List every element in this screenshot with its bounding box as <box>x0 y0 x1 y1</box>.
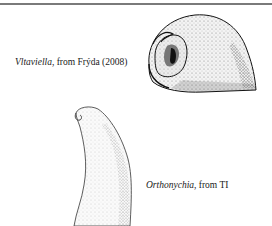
top-rule <box>0 3 272 5</box>
citation: , from TI <box>194 180 228 190</box>
taxon-name: Vltaviella <box>15 57 52 67</box>
caption-orthonychia: Orthonychia, from TI <box>146 181 228 191</box>
orthonychia-shell-illustration <box>62 103 146 226</box>
vltaviella-shell-illustration <box>143 12 258 96</box>
citation: , from Frýda (2008) <box>52 57 127 67</box>
caption-vltaviella: Vltaviella, from Frýda (2008) <box>15 58 127 68</box>
taxon-name: Orthonychia <box>146 180 194 190</box>
